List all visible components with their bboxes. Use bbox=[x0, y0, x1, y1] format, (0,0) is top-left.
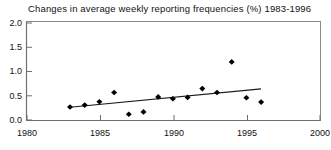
chart-figure: Changes in average weekly reporting freq… bbox=[0, 0, 331, 150]
data-point-1996 bbox=[258, 99, 264, 105]
data-point-1984 bbox=[82, 102, 88, 108]
data-point-1993 bbox=[214, 90, 220, 96]
data-point-1983 bbox=[67, 104, 73, 110]
data-point-1995 bbox=[243, 95, 249, 101]
x-tick-label-1985: 1985 bbox=[80, 128, 120, 138]
x-tick-label-1980: 1980 bbox=[7, 128, 47, 138]
trend-line bbox=[70, 89, 261, 107]
data-points bbox=[67, 59, 264, 117]
y-tick-label-0-0: 0.0 bbox=[0, 115, 22, 125]
data-point-1985 bbox=[96, 99, 102, 105]
y-tick-label-2-0: 2.0 bbox=[0, 18, 22, 28]
data-point-1994 bbox=[229, 59, 235, 65]
x-tick-label-2000: 2000 bbox=[300, 128, 331, 138]
chart-title: Changes in average weekly reporting freq… bbox=[26, 3, 313, 14]
y-tick-label-1-0: 1.0 bbox=[0, 66, 22, 76]
y-tick-label-0-5: 0.5 bbox=[0, 91, 22, 101]
y-tick-label-1-5: 1.5 bbox=[0, 42, 22, 52]
data-point-1988 bbox=[141, 109, 147, 115]
data-point-1992 bbox=[199, 86, 205, 92]
x-tick-label-1995: 1995 bbox=[227, 128, 267, 138]
x-tick-label-1990: 1990 bbox=[154, 128, 194, 138]
data-point-1987 bbox=[126, 112, 132, 118]
data-point-1986 bbox=[111, 90, 117, 96]
